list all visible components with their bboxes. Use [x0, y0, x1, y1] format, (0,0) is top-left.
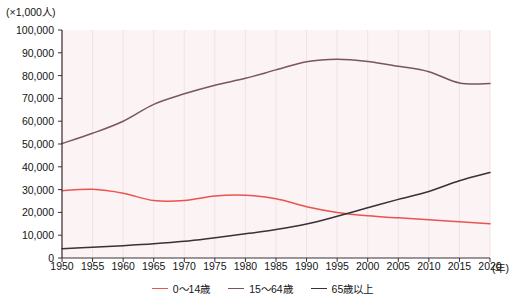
population-line-chart: (×1,000人) 010,00020,00030,00040,00050,00…: [0, 0, 525, 299]
plot-area: [62, 30, 490, 258]
vertical-gridlines: [62, 30, 490, 258]
y-axis-tick-labels: 010,00020,00030,00040,00050,00060,00070,…: [0, 30, 58, 258]
legend-item[interactable]: 65歳以上: [311, 281, 374, 296]
y-axis-tick-label: 90,000: [22, 47, 54, 59]
x-axis-tick-label: 2015: [448, 260, 471, 272]
x-axis-unit-label: (年): [492, 260, 509, 275]
legend-label: 15～64歳: [249, 281, 292, 296]
x-axis-tick-label: 1990: [295, 260, 318, 272]
x-axis-tick-label: 1960: [111, 260, 134, 272]
legend-label: 65歳以上: [332, 281, 374, 296]
x-axis-tick-label: 2005: [387, 260, 410, 272]
legend-color-swatch: [311, 288, 327, 289]
x-axis-tick-label: 1980: [234, 260, 257, 272]
x-axis-tick-label: 1955: [81, 260, 104, 272]
y-axis-tick-label: 30,000: [22, 184, 54, 196]
x-axis-tick-labels: 1950195519601965197019751980198519901995…: [62, 260, 490, 276]
x-axis-tick-label: 2000: [356, 260, 379, 272]
x-axis-tick-label: 1965: [142, 260, 165, 272]
plot-lines: [62, 30, 490, 258]
y-axis-tick-label: 20,000: [22, 206, 54, 218]
y-axis-tick-label: 80,000: [22, 70, 54, 82]
x-axis-tick-label: 2010: [417, 260, 440, 272]
legend-color-swatch: [152, 288, 168, 289]
y-axis-tick-label: 100,000: [16, 24, 54, 36]
x-axis-tick-label: 1975: [203, 260, 226, 272]
legend-item[interactable]: 15～64歳: [228, 281, 292, 296]
y-axis-tick-label: 50,000: [22, 138, 54, 150]
chart-legend: 0～14歳15～64歳65歳以上: [0, 281, 525, 296]
x-axis-tick-label: 1970: [173, 260, 196, 272]
legend-color-swatch: [228, 288, 244, 289]
y-axis-tick-label: 40,000: [22, 161, 54, 173]
y-axis-tick-label: 60,000: [22, 115, 54, 127]
x-axis-tick-label: 1985: [264, 260, 287, 272]
y-axis-unit-label: (×1,000人): [6, 4, 55, 19]
x-axis-tick-label: 1995: [325, 260, 348, 272]
y-axis-tick-label: 70,000: [22, 92, 54, 104]
legend-label: 0～14歳: [173, 281, 211, 296]
y-axis-tick-label: 10,000: [22, 229, 54, 241]
legend-item[interactable]: 0～14歳: [152, 281, 211, 296]
x-axis-tick-label: 1950: [50, 260, 73, 272]
